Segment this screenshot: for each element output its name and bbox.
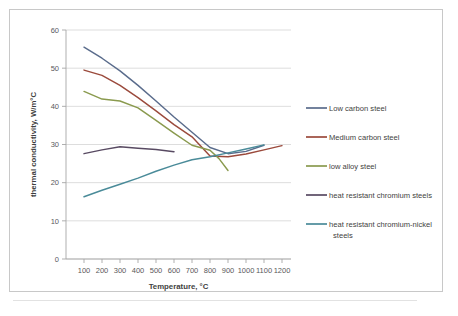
legend-label-1: Medium carbon steel [329,133,400,142]
legend-label-0: Low carbon steel [329,104,387,113]
y-axis-tick-label: 30 [51,140,59,149]
series-line-medium-carbon-steel [84,70,282,157]
scan-artifact-line [13,300,417,301]
x-axis-tick-label: 500 [150,266,163,275]
y-axis-tick-label: 50 [51,64,59,73]
x-axis-tick-label: 300 [114,266,127,275]
x-axis-tick-label: 700 [186,266,199,275]
x-axis-tick-label: 400 [132,266,145,275]
legend-label-2: low alloy steel [329,162,377,171]
y-axis-tick-label: 40 [51,102,59,111]
figure-container: 0102030405060100200300400500600700800900… [0,0,458,316]
x-axis-tick-label: 100 [78,266,91,275]
y-axis-tick-label: 20 [51,178,59,187]
x-axis-tick-label: 900 [222,266,235,275]
series-line-heat-resistant-chromium-steels [84,147,174,154]
chart-frame: 0102030405060100200300400500600700800900… [9,9,443,292]
legend-label-4-continued: steels [333,231,353,240]
series-line-low-alloy-steel [84,91,228,170]
x-axis-tick-label: 800 [204,266,217,275]
y-axis-tick-label: 10 [51,217,59,226]
x-axis-tick-label: 200 [96,266,109,275]
x-axis-title: Temperature, °C [149,282,209,291]
line-chart: 0102030405060100200300400500600700800900… [10,10,442,291]
x-axis-tick-label: 1100 [256,266,272,275]
legend-label-4: heat resistant chromium-nickel [329,220,432,229]
legend-label-3: heat resistant chromium steels [329,191,432,200]
x-axis-tick-label: 1000 [238,266,255,275]
y-axis-tick-label: 0 [55,255,59,264]
x-axis-tick-label: 1200 [274,266,291,275]
y-axis-tick-label: 60 [51,26,59,35]
x-axis-tick-label: 600 [168,266,181,275]
y-axis-title: thermal conductivity, W/m°C [29,92,38,198]
